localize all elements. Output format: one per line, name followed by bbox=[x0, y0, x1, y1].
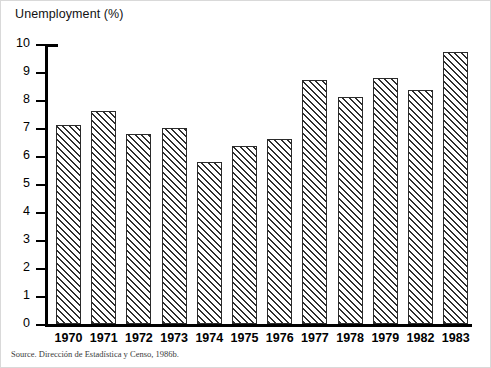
y-axis-tick: 4 bbox=[36, 212, 46, 214]
bar bbox=[197, 162, 222, 324]
y-axis-tick-label: 2 bbox=[8, 259, 30, 275]
bar bbox=[302, 80, 327, 324]
y-axis-tick: 8 bbox=[36, 100, 46, 102]
y-axis-tick-label: 1 bbox=[8, 287, 30, 303]
bar bbox=[373, 78, 398, 324]
y-axis-tick: 1 bbox=[36, 296, 46, 298]
y-axis-tick-label: 6 bbox=[8, 147, 30, 163]
bar bbox=[91, 111, 116, 324]
y-axis-tick: 10 bbox=[36, 44, 46, 46]
y-axis-tick: 0 bbox=[36, 324, 46, 326]
y-axis-tick-label: 8 bbox=[8, 91, 30, 107]
bar bbox=[408, 90, 433, 324]
y-axis-tick: 3 bbox=[36, 240, 46, 242]
bar bbox=[232, 146, 257, 324]
bar bbox=[338, 97, 363, 324]
y-axis-tick-label: 5 bbox=[8, 175, 30, 191]
x-axis-line bbox=[45, 324, 472, 327]
y-axis-tick: 2 bbox=[36, 268, 46, 270]
plot-area: 012345678910 197019711972197319741975197… bbox=[48, 44, 478, 324]
bar bbox=[126, 134, 151, 324]
bar bbox=[443, 52, 468, 324]
x-axis-tick-label: 1983 bbox=[434, 331, 478, 345]
y-axis-tick: 9 bbox=[36, 72, 46, 74]
source-note: Source. Dirección de Estadística y Censo… bbox=[11, 349, 179, 359]
y-axis-top-cap bbox=[45, 44, 58, 47]
y-axis-tick-label: 9 bbox=[8, 63, 30, 79]
bar bbox=[56, 125, 81, 324]
y-axis-tick: 6 bbox=[36, 156, 46, 158]
y-axis-tick-label: 4 bbox=[8, 203, 30, 219]
y-axis-tick-label: 7 bbox=[8, 119, 30, 135]
y-axis-tick-label: 10 bbox=[8, 35, 30, 51]
y-axis-tick: 7 bbox=[36, 128, 46, 130]
y-axis-tick: 5 bbox=[36, 184, 46, 186]
bar bbox=[267, 139, 292, 324]
chart-figure: Unemployment (%) 012345678910 1970197119… bbox=[0, 0, 491, 368]
y-axis-tick-label: 3 bbox=[8, 231, 30, 247]
y-axis-tick-label: 0 bbox=[8, 315, 30, 331]
page-title: Unemployment (%) bbox=[15, 7, 124, 21]
bar bbox=[162, 128, 187, 324]
